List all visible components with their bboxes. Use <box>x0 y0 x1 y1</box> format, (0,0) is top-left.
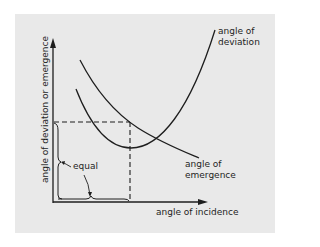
emergence-label-line2: emergence <box>185 170 236 181</box>
horizontal-equal-brace <box>58 196 129 201</box>
emergence-label: angle of emergence <box>185 159 236 181</box>
deviation-label-line1: angle of <box>218 26 260 37</box>
y-axis-arrow-icon <box>50 38 56 48</box>
y-axis-label: angle of deviation or emergence <box>40 36 50 183</box>
deviation-label: angle of deviation <box>218 26 260 48</box>
deviation-label-line2: deviation <box>218 37 260 48</box>
deviation-curve <box>76 30 215 148</box>
equal-annotation: equal <box>73 161 98 172</box>
emergence-label-line1: angle of <box>185 159 236 170</box>
x-axis-arrow-icon <box>198 199 208 205</box>
equal-pointer-left-arrow-icon <box>61 161 65 165</box>
vertical-equal-brace <box>54 123 62 199</box>
x-axis-label: angle of incidence <box>156 207 238 218</box>
